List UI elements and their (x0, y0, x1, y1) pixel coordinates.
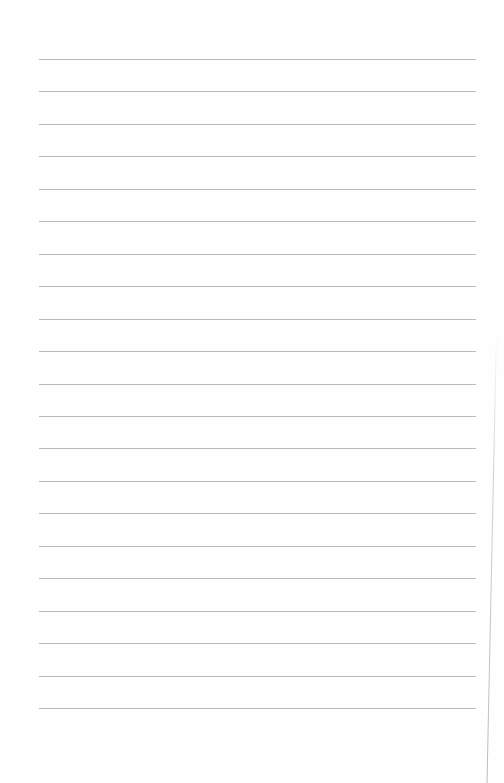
ruled-line (39, 481, 476, 482)
ruled-line (39, 643, 476, 644)
ruled-line (39, 448, 476, 449)
ruled-line (39, 221, 476, 222)
ruled-line (39, 254, 476, 255)
ruled-line (39, 546, 476, 547)
ruled-line (39, 91, 476, 92)
ruled-line (39, 286, 476, 287)
ruled-line (39, 124, 476, 125)
ruled-line (39, 59, 476, 60)
ruled-line (39, 156, 476, 157)
ruled-line (39, 676, 476, 677)
lined-paper-page (0, 0, 504, 783)
ruled-line (39, 416, 476, 417)
ruled-line (39, 319, 476, 320)
paper-edge-shadow (487, 330, 497, 783)
ruled-line (39, 351, 476, 352)
ruled-line (39, 513, 476, 514)
ruled-line (39, 611, 476, 612)
ruled-line (39, 189, 476, 190)
ruled-line (39, 384, 476, 385)
ruled-line (39, 708, 476, 709)
ruled-line (39, 578, 476, 579)
